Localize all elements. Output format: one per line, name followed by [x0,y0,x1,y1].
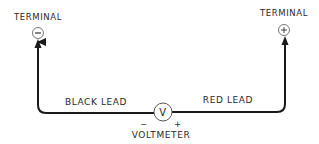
voltmeter-connection-diagram: TERMINAL TERMINAL BLACK LEAD RED LEAD V … [0,0,319,144]
positive-arrowhead-icon [282,36,289,45]
voltmeter-positive-mark: + [174,120,181,129]
negative-terminal-icon [33,28,44,39]
voltmeter-label: VOLTMETER [132,130,191,140]
red-lead-label: RED LEAD [203,95,253,105]
voltmeter-symbol: V [159,107,166,118]
voltmeter-icon: V [154,103,172,121]
voltmeter-negative-mark: − [140,120,147,129]
positive-terminal-icon [279,25,290,36]
positive-terminal-label: TERMINAL [259,8,308,18]
black-lead-label: BLACK LEAD [65,97,127,107]
negative-arrowhead-icon [35,39,42,48]
negative-terminal-label: TERMINAL [13,12,62,22]
